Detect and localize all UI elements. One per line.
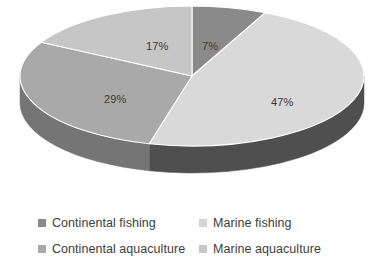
legend-swatch-icon [38,219,46,227]
legend-item[interactable]: Continental fishing [38,210,156,236]
legend-item-label: Marine aquaculture [213,242,321,256]
slice-value-label: 7% [202,40,218,52]
legend-item-label: Continental aquaculture [52,242,185,256]
chart-legend: Continental fishingMarine fishing Contin… [0,206,383,272]
pie-top-faces [20,6,364,146]
legend-item[interactable]: Marine aquaculture [199,236,321,262]
pie-plot-area: 7%47%29%17% [0,0,383,205]
slice-value-label: 17% [146,40,168,52]
legend-swatch-icon [199,219,207,227]
legend-item[interactable]: Marine fishing [199,210,292,236]
slice-value-label: 47% [271,96,293,108]
legend-row: Continental aquacultureMarine aquacultur… [0,236,383,262]
legend-row: Continental fishingMarine fishing [0,210,383,236]
legend-swatch-icon [199,245,207,253]
pie-chart-figure: 7%47%29%17% Continental fishingMarine fi… [0,0,383,272]
legend-item-label: Continental fishing [52,216,156,230]
pie-svg [0,0,383,205]
legend-item[interactable]: Continental aquaculture [38,236,185,262]
legend-swatch-icon [38,245,46,253]
legend-item-label: Marine fishing [213,216,292,230]
slice-value-label: 29% [104,93,126,105]
